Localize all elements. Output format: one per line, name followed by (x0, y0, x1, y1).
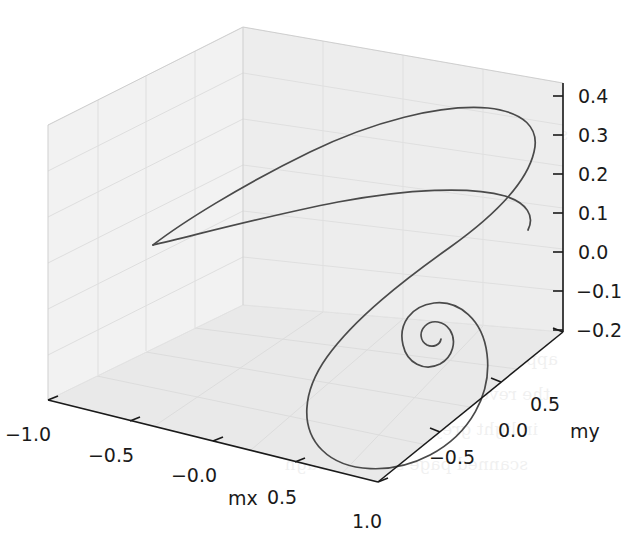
figure-3d-trajectory-plot: the reversed text is illegible scanned p… (0, 0, 638, 540)
z-tick-labels: 0.4 0.3 0.2 0.1 0.0 −0.1 −0.2 (576, 85, 622, 341)
z-tick-label: 0.2 (578, 163, 608, 185)
plot-canvas: the reversed text is illegible scanned p… (0, 0, 638, 540)
z-tick-label: −0.2 (576, 319, 622, 341)
x-tick-label: −1.0 (5, 423, 51, 445)
x-tick-label: −0.0 (171, 464, 217, 486)
x-tick-label: −0.5 (88, 444, 134, 466)
y-tick-label: −0.5 (429, 446, 475, 468)
y-tick-label: 0.0 (498, 419, 528, 441)
x-tick-label: 1.0 (352, 510, 382, 532)
z-tick-label: 0.1 (578, 202, 608, 224)
z-tick-label: 0.3 (578, 124, 608, 146)
z-tick-label: 0.0 (578, 241, 608, 263)
y-tick-label: 0.5 (530, 393, 560, 415)
z-tick-label: 0.4 (578, 85, 608, 107)
y-axis-title: my (570, 420, 600, 442)
z-tick-label: −0.1 (576, 280, 622, 302)
x-axis-title: mx (228, 487, 258, 509)
x-tick-label: 0.5 (267, 486, 297, 508)
